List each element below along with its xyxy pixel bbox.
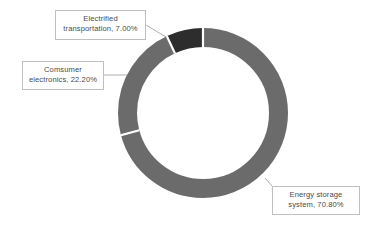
callout-energy-line2: system, 70.80% bbox=[277, 200, 355, 210]
donut-slice-electrified-transportation bbox=[184, 94, 222, 132]
callout-energy-line1: Energy storage bbox=[277, 190, 355, 200]
callout-comsumer-line1: Comsumer bbox=[27, 65, 99, 75]
callout-electrified-transportation: Electrified transportation, 7.00% bbox=[55, 10, 146, 40]
leader-line-energy bbox=[265, 178, 272, 186]
callout-comsumer-electronics: Comsumer electronics, 22.20% bbox=[22, 61, 104, 90]
callout-electrified-line2: transportation, 7.00% bbox=[60, 24, 141, 34]
callout-comsumer-line2: electronics, 22.20% bbox=[27, 75, 99, 85]
donut-chart: Electrified transportation, 7.00% Comsum… bbox=[0, 0, 368, 229]
callout-energy-storage-system: Energy storage system, 70.80% bbox=[272, 186, 360, 215]
callout-electrified-line1: Electrified bbox=[60, 14, 141, 24]
